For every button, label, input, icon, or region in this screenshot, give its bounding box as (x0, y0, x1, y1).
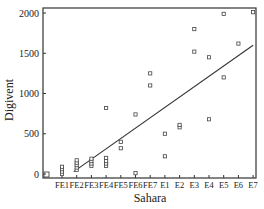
x-tick-label: FE6 (128, 180, 142, 190)
square-marker (207, 56, 210, 59)
x-tick-label: FE2 (70, 180, 84, 190)
square-marker (193, 50, 196, 53)
x-axis-ticks: FE1FE2FE3FE4FE5FE6FE7E1E2E3E4E5E6E7 (55, 175, 258, 190)
square-marker (207, 118, 210, 121)
x-tick-label: FE3 (84, 180, 98, 190)
x-axis-title: Sahara (134, 191, 167, 205)
square-marker (252, 11, 255, 14)
x-tick-label: E6 (234, 180, 243, 190)
y-tick-label: 1000 (19, 88, 39, 99)
y-axis-title: Digivent (2, 78, 16, 121)
x-tick-label: E7 (248, 180, 257, 190)
square-marker (134, 113, 137, 116)
chart-canvas: 0500100015002000 FE1FE2FE3FE4FE5FE6FE7E1… (0, 0, 264, 209)
square-marker (119, 147, 122, 150)
x-tick-label: FE5 (114, 180, 128, 190)
square-marker (75, 159, 78, 162)
square-marker (134, 172, 137, 175)
y-tick-label: 500 (24, 128, 39, 139)
y-axis-ticks: 0500100015002000 (19, 8, 46, 180)
x-tick-label: E3 (190, 180, 199, 190)
square-marker (60, 165, 63, 168)
y-tick-label: 1500 (19, 48, 39, 59)
plot-border (43, 8, 256, 178)
regression-line (74, 45, 253, 171)
square-marker (237, 42, 240, 45)
y-tick-label: 2000 (19, 8, 39, 19)
fit-line-segment (74, 45, 253, 171)
square-marker (149, 72, 152, 75)
x-tick-label: E1 (160, 180, 169, 190)
x-tick-label: E2 (175, 180, 184, 190)
square-marker (222, 76, 225, 79)
y-tick-label: 0 (34, 169, 39, 180)
square-marker (119, 140, 122, 143)
square-marker (105, 160, 108, 163)
square-marker (163, 155, 166, 158)
square-marker (222, 12, 225, 15)
square-marker (149, 84, 152, 87)
square-marker (105, 106, 108, 109)
x-tick-label: FE7 (143, 180, 157, 190)
x-tick-label: E4 (204, 180, 214, 190)
x-tick-label: E5 (219, 180, 228, 190)
square-marker (90, 157, 93, 160)
plot-frame (43, 8, 256, 178)
scatter-chart: 0500100015002000 FE1FE2FE3FE4FE5FE6FE7E1… (0, 0, 264, 209)
square-marker (105, 156, 108, 159)
x-tick-label: FE1 (55, 180, 69, 190)
square-marker (193, 28, 196, 31)
x-tick-label: FE4 (99, 180, 114, 190)
square-marker (178, 123, 181, 126)
data-markers (44, 11, 255, 177)
square-marker (163, 132, 166, 135)
